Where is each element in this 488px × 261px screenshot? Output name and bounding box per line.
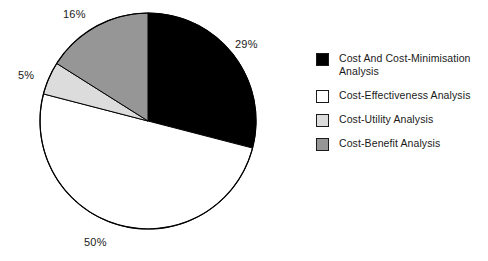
- pie-chart-figure: 16% 29% 5% 50% Cost And Cost-Minimisatio…: [0, 0, 488, 261]
- legend-swatch-icon-cost-utility: [316, 114, 329, 127]
- pie-label-cost-utility: 5%: [18, 69, 34, 81]
- legend-item-cost-minimisation[interactable]: Cost And Cost-Minimisation Analysis: [316, 52, 488, 78]
- legend-label-cost-minimisation: Cost And Cost-Minimisation Analysis: [339, 52, 471, 78]
- pie-label-cost-minimisation: 29%: [235, 38, 258, 50]
- legend-swatch-icon-cost-effectiveness: [316, 90, 329, 103]
- legend-label-cost-benefit: Cost-Benefit Analysis: [339, 137, 440, 150]
- pie-plot-area: 16% 29% 5% 50%: [0, 0, 290, 261]
- legend-item-cost-utility[interactable]: Cost-Utility Analysis: [316, 113, 488, 127]
- legend-swatch-icon-cost-minimisation: [316, 53, 329, 66]
- legend-label-cost-utility: Cost-Utility Analysis: [339, 113, 433, 126]
- chart-legend: Cost And Cost-Minimisation Analysis Cost…: [316, 52, 488, 151]
- legend-label-cost-effectiveness: Cost-Effectiveness Analysis: [339, 89, 470, 102]
- pie-label-cost-effectiveness: 50%: [84, 236, 107, 248]
- legend-item-cost-benefit[interactable]: Cost-Benefit Analysis: [316, 137, 488, 151]
- pie-label-cost-benefit: 16%: [63, 8, 86, 20]
- legend-item-cost-effectiveness[interactable]: Cost-Effectiveness Analysis: [316, 89, 488, 103]
- legend-swatch-icon-cost-benefit: [316, 138, 329, 151]
